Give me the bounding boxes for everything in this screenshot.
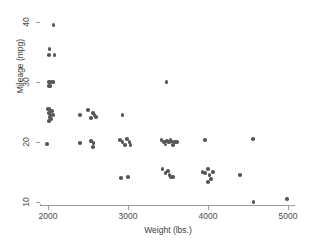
x-axis-line — [40, 205, 295, 206]
data-point — [48, 47, 52, 51]
data-point — [47, 53, 51, 57]
x-axis-title: Weight (lbs.) — [40, 225, 296, 235]
data-point — [161, 167, 165, 171]
data-point — [86, 108, 90, 112]
data-point — [285, 197, 289, 201]
x-tick-mark — [208, 206, 209, 210]
data-point — [78, 113, 82, 117]
data-point — [53, 53, 57, 57]
y-axis-title: Mileage (mpg) — [14, 1, 26, 131]
data-point — [94, 115, 98, 119]
data-points-layer — [40, 14, 296, 204]
data-point — [47, 119, 51, 123]
data-point — [203, 171, 207, 175]
data-point — [209, 177, 213, 181]
x-tick-mark — [48, 206, 49, 210]
data-point — [203, 138, 207, 142]
x-tick-label: 5000 — [268, 211, 308, 222]
y-tick-label: 10 — [20, 194, 32, 210]
data-point — [211, 170, 215, 174]
scatter-plot-figure: 10203040 2000300040005000 Mileage (mpg) … — [0, 0, 316, 245]
data-point — [206, 167, 210, 171]
data-point — [119, 176, 123, 180]
data-point — [252, 200, 256, 204]
data-point — [175, 140, 179, 144]
data-point — [123, 143, 127, 147]
data-point — [121, 113, 125, 117]
y-tick-label: 20 — [20, 134, 32, 150]
data-point — [206, 180, 210, 184]
data-point — [89, 116, 93, 120]
data-point — [49, 84, 53, 88]
data-point — [78, 141, 82, 145]
data-point — [208, 173, 212, 177]
data-point — [129, 143, 133, 147]
data-point — [51, 113, 55, 117]
data-point — [165, 80, 169, 84]
data-point — [126, 175, 130, 179]
x-tick-mark — [128, 206, 129, 210]
data-point — [238, 173, 242, 177]
x-tick-label: 2000 — [28, 211, 68, 222]
x-tick-mark — [288, 206, 289, 210]
y-tick-label-container: 20 — [18, 136, 34, 148]
plot-area — [40, 14, 296, 204]
y-axis-title-container: Mileage (mpg) — [14, 1, 26, 131]
data-point — [52, 23, 56, 27]
data-point — [251, 137, 255, 141]
data-point — [45, 142, 49, 146]
data-point — [52, 80, 56, 84]
y-tick-label-container: 10 — [18, 196, 34, 208]
data-point — [166, 169, 170, 173]
x-tick-label: 4000 — [188, 211, 228, 222]
data-point — [91, 145, 95, 149]
data-point — [171, 175, 175, 179]
data-point — [50, 109, 54, 113]
x-tick-label: 3000 — [108, 211, 148, 222]
